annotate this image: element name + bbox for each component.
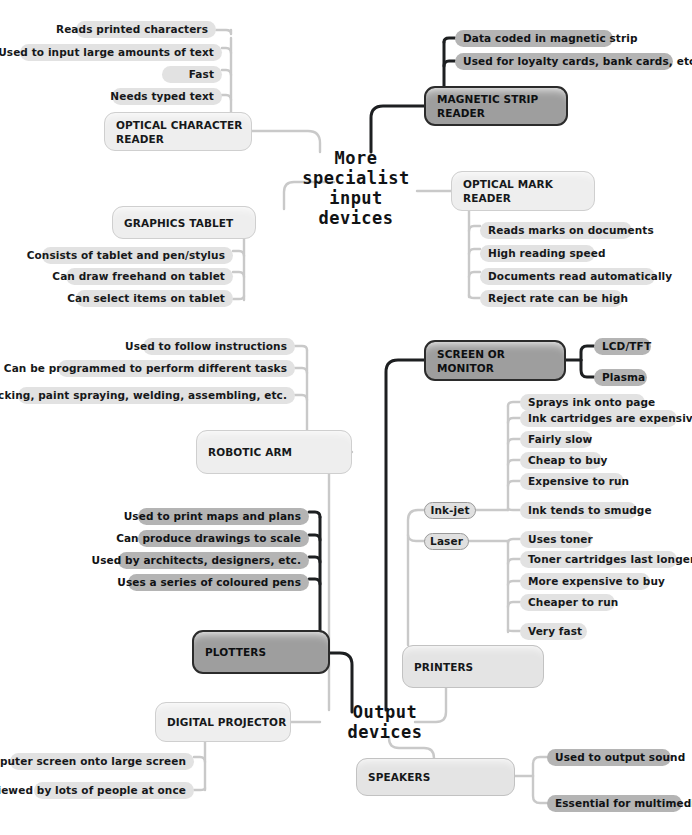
mindmap-canvas: More specialist input devices Output dev…	[0, 0, 692, 835]
node-magnetic-strip-reader[interactable]: MAGNETIC STRIP READER	[424, 86, 568, 126]
node-printers[interactable]: PRINTERS	[402, 645, 544, 688]
leaf-omr-0: Reads marks on documents	[480, 222, 632, 239]
leaf-som-0: LCD/TFT	[594, 338, 651, 355]
center-title-input-devices: More specialist input devices	[292, 148, 420, 228]
node-label-line2: READER	[463, 191, 553, 205]
node-label-line1: SPEAKERS	[368, 770, 430, 784]
leaf-plot-1: Can produce drawings to scale	[138, 530, 309, 547]
leaf-plot-0: Used to print maps and plans	[138, 508, 309, 525]
center-title-output-devices: Output devices	[326, 702, 444, 742]
node-label-line1: SCREEN OR	[437, 347, 505, 361]
leaf-gt-1: Can draw freehand on tablet	[66, 268, 233, 285]
leaf-laser-3: Cheaper to run	[520, 594, 615, 611]
node-graphics-tablet[interactable]: GRAPHICS TABLET	[112, 206, 256, 239]
node-label-line2: READER	[116, 132, 243, 146]
leaf-laser-1: Toner cartridges last longer	[520, 551, 677, 568]
node-label-line2: READER	[437, 106, 538, 120]
leaf-ocr-0: Reads printed characters	[76, 21, 216, 38]
leaf-inkjet-0: Sprays ink onto page	[520, 394, 645, 411]
leaf-laser-2: More expensive to buy	[520, 573, 650, 590]
node-label-line1: OPTICAL MARK	[463, 177, 553, 191]
leaf-laser-0: Uses toner	[520, 531, 592, 548]
node-label-line1: MAGNETIC STRIP	[437, 92, 538, 106]
node-label-line1: OPTICAL CHARACTER	[116, 118, 243, 132]
node-printer-inkjet[interactable]: Ink-jet	[424, 502, 476, 519]
node-speakers[interactable]: SPEAKERS	[356, 758, 515, 796]
leaf-dp-1: Can be viewed by lots of people at once	[34, 782, 194, 799]
leaf-spk-0: Used to output sound	[547, 749, 671, 766]
node-digital-projector[interactable]: DIGITAL PROJECTOR	[155, 702, 291, 742]
node-label-line1: ROBOTIC ARM	[208, 445, 292, 459]
leaf-gt-0: Consists of tablet and pen/stylus	[42, 247, 233, 264]
leaf-inkjet-4: Expensive to run	[520, 473, 624, 490]
leaf-dp-0: Used to project computer screen onto lar…	[10, 753, 194, 770]
node-optical-mark-reader[interactable]: OPTICAL MARK READER	[451, 171, 595, 211]
leaf-ocr-1: Used to input large amounts of text	[20, 44, 222, 61]
leaf-ra-2: Packing, paint spraying, welding, assemb…	[18, 387, 295, 404]
leaf-ocr-2: Fast	[162, 66, 222, 83]
leaf-gt-2: Can select items on tablet	[76, 290, 233, 307]
leaf-omr-3: Reject rate can be high	[480, 290, 623, 307]
node-plotters[interactable]: PLOTTERS	[192, 630, 330, 674]
leaf-msr-1: Used for loyalty cards, bank cards, etc.	[455, 53, 673, 70]
node-label-line1: DIGITAL PROJECTOR	[167, 715, 286, 729]
node-optical-character-reader[interactable]: OPTICAL CHARACTER READER	[104, 112, 252, 151]
node-label-line2: MONITOR	[437, 361, 505, 375]
leaf-inkjet-2: Fairly slow	[520, 431, 592, 448]
leaf-inkjet-5: Ink tends to smudge	[520, 502, 637, 519]
leaf-plot-2: Used by architects, designers, etc.	[118, 552, 309, 569]
leaf-msr-0: Data coded in magnetic strip	[455, 30, 613, 47]
node-robotic-arm[interactable]: ROBOTIC ARM	[196, 430, 352, 474]
node-label-line1: PLOTTERS	[205, 645, 266, 659]
node-screen-or-monitor[interactable]: SCREEN OR MONITOR	[424, 340, 566, 381]
node-printer-laser[interactable]: Laser	[424, 533, 469, 550]
leaf-inkjet-3: Cheap to buy	[520, 452, 602, 469]
leaf-som-1: Plasma	[594, 369, 647, 386]
leaf-inkjet-1: Ink cartridges are expensive	[520, 410, 677, 427]
leaf-omr-1: High reading speed	[480, 245, 595, 262]
node-label-line1: PRINTERS	[414, 660, 473, 674]
leaf-laser-4: Very fast	[520, 623, 587, 640]
leaf-ra-1: Can be programmed to perform different t…	[58, 360, 295, 377]
leaf-ra-0: Used to follow instructions	[143, 338, 295, 355]
leaf-spk-1: Essential for multimedia	[547, 795, 682, 812]
node-label-line1: GRAPHICS TABLET	[124, 216, 233, 230]
leaf-omr-2: Documents read automatically	[480, 268, 655, 285]
leaf-plot-3: Uses a series of coloured pens	[128, 574, 309, 591]
leaf-ocr-3: Needs typed text	[112, 88, 222, 105]
